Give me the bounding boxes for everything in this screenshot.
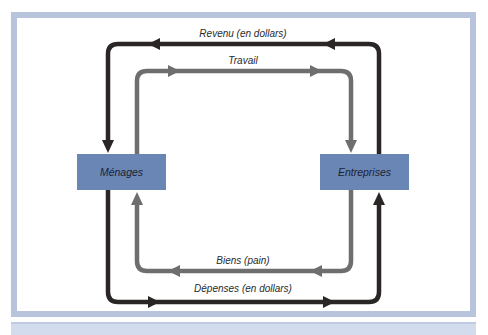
arrow-left-icon xyxy=(310,265,322,277)
arrow-down-icon xyxy=(102,140,114,153)
arrow-left-icon xyxy=(323,38,335,50)
arrow-right-icon xyxy=(148,296,160,308)
arrow-up-icon xyxy=(373,192,385,205)
arrow-right-icon xyxy=(323,296,335,308)
spending-flow-label: Dépenses (en dollars) xyxy=(194,283,292,294)
arrow-up-icon xyxy=(131,192,143,205)
arrow-left-icon xyxy=(168,265,180,277)
labor-flow-label: Travail xyxy=(228,55,257,66)
labor-flow-line xyxy=(137,65,357,154)
node-firms: Entreprises xyxy=(320,154,409,190)
node-firms-label: Entreprises xyxy=(338,166,391,178)
node-households-label: Ménages xyxy=(100,166,143,178)
arrow-right-icon xyxy=(168,65,180,77)
arrow-left-icon xyxy=(148,38,160,50)
income-flow-label: Revenu (en dollars) xyxy=(199,28,286,39)
arrow-right-icon xyxy=(310,65,322,77)
arrow-down-icon xyxy=(345,140,357,153)
goods-flow-label: Biens (pain) xyxy=(216,255,269,266)
node-households: Ménages xyxy=(77,154,166,190)
